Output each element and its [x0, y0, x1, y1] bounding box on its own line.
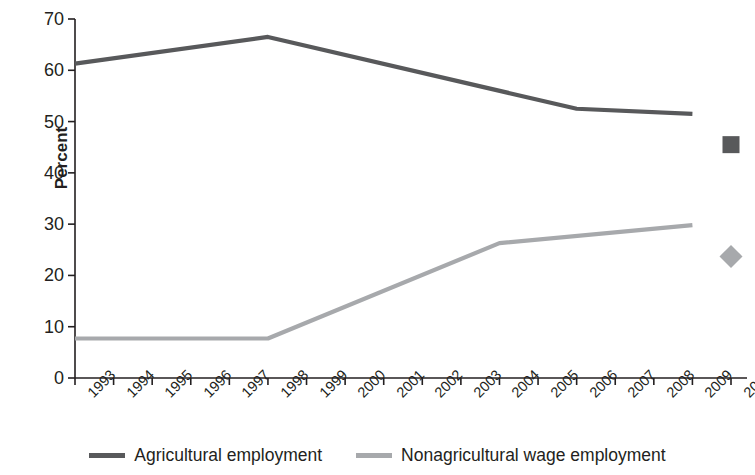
y-tick-label: 30 [26, 215, 64, 233]
legend-swatch-line-icon [356, 453, 392, 458]
series-markers [720, 136, 743, 268]
legend-label-nonagricultural: Nonagricultural wage employment [401, 447, 666, 465]
legend-item-nonagricultural: Nonagricultural wage employment [356, 447, 666, 465]
tick-marks [68, 19, 731, 385]
y-tick-label: 70 [26, 10, 64, 28]
y-tick-label: 10 [26, 318, 64, 336]
y-tick-label: 40 [26, 164, 64, 182]
chart-legend: Agricultural employment Nonagricultural … [0, 447, 755, 465]
chart-container: Percent 010203040506070 1993199419951996… [0, 0, 755, 475]
legend-label-agricultural: Agricultural employment [134, 447, 322, 465]
series-lines [75, 37, 692, 339]
y-tick-label: 20 [26, 266, 64, 284]
axis-lines [75, 19, 747, 378]
y-tick-label: 50 [26, 113, 64, 131]
plot-area [0, 0, 755, 475]
legend-swatch-line-icon [89, 453, 125, 458]
legend-item-agricultural: Agricultural employment [89, 447, 322, 465]
y-tick-label: 60 [26, 61, 64, 79]
y-tick-label: 0 [26, 369, 64, 387]
